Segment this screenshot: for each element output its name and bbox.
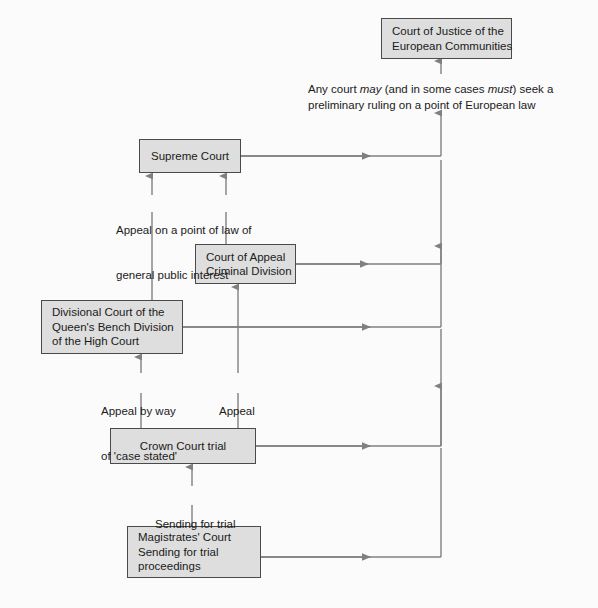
ruling-note-text-after: ) seek a <box>513 83 554 95</box>
node-court-of-justice-line-2: European Communities <box>392 39 512 54</box>
label-appeal: Appeal <box>219 374 255 449</box>
label-appeal-case-stated-line-2: of 'case stated' <box>101 449 177 464</box>
ruling-note-italic-may: may <box>360 83 382 95</box>
node-supreme-court[interactable]: Supreme Court <box>139 139 241 173</box>
label-sending-for-trial: Sending for trial <box>155 487 236 562</box>
label-appeal-line-1: Appeal <box>219 404 255 419</box>
preliminary-ruling-note-line-1: Any court may (and in some cases must) s… <box>308 82 553 98</box>
label-appeal-point-of-law: Appeal on a point of law of general publ… <box>116 193 252 313</box>
node-court-of-justice[interactable]: Court of Justice of the European Communi… <box>381 18 512 59</box>
ruling-note-italic-must: must <box>488 83 513 95</box>
preliminary-ruling-note: Any court may (and in some cases must) s… <box>308 82 553 113</box>
label-appeal-case-stated: Appeal by way of 'case stated' <box>101 374 177 494</box>
court-hierarchy-diagram: Court of Justice of the European Communi… <box>0 0 598 608</box>
node-supreme-court-label: Supreme Court <box>151 149 229 164</box>
label-appeal-point-of-law-line-2: general public interest <box>116 268 252 283</box>
node-divisional-court-line-3: of the High Court <box>52 334 139 349</box>
preliminary-ruling-note-line-2: preliminary ruling on a point of Europea… <box>308 98 553 114</box>
ruling-note-text-middle: (and in some cases <box>382 83 488 95</box>
ruling-note-text-before: Any court <box>308 83 360 95</box>
label-sending-for-trial-line-1: Sending for trial <box>155 517 236 532</box>
node-divisional-court-line-2: Queen's Bench Division <box>52 320 174 335</box>
label-appeal-point-of-law-line-1: Appeal on a point of law of <box>116 223 252 238</box>
node-court-of-justice-line-1: Court of Justice of the <box>392 24 504 39</box>
label-appeal-case-stated-line-1: Appeal by way <box>101 404 177 419</box>
